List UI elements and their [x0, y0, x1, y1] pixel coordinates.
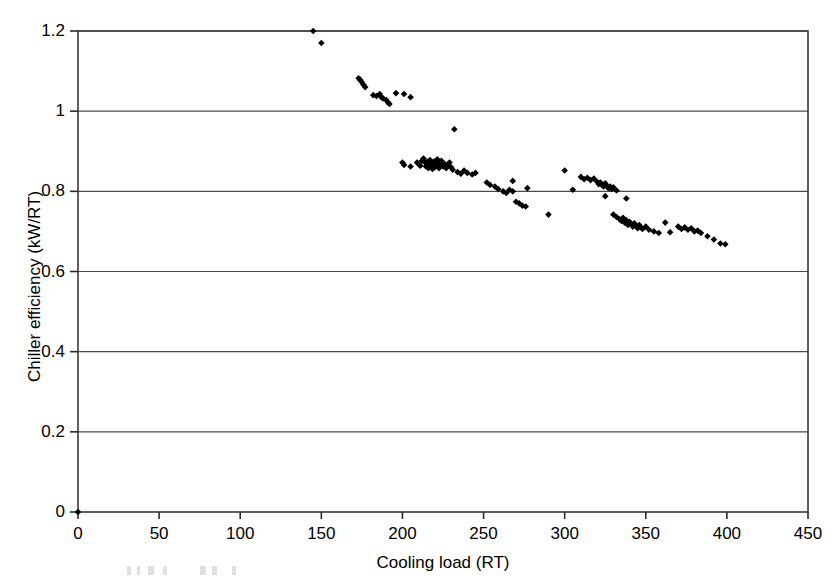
- y-tick-label: 0.8: [41, 182, 65, 199]
- data-point: [569, 186, 576, 193]
- y-tick-label: 1: [56, 102, 65, 119]
- x-tick-label: 250: [454, 525, 514, 542]
- x-tick-label: 200: [372, 525, 432, 542]
- x-tick-label: 450: [778, 525, 838, 542]
- data-point: [711, 236, 718, 243]
- data-point: [401, 91, 408, 98]
- y-tick-label: 0.6: [41, 263, 65, 280]
- data-point: [667, 229, 674, 236]
- data-point: [310, 28, 317, 35]
- x-tick-label: 350: [616, 525, 676, 542]
- x-tick-label: 300: [535, 525, 595, 542]
- y-tick-label: 1.2: [41, 22, 65, 39]
- x-axis-title: Cooling load (RT): [293, 554, 593, 571]
- data-point: [318, 40, 325, 47]
- data-point: [662, 219, 669, 226]
- y-tick-label: 0.4: [41, 343, 65, 360]
- y-tick-label: 0.2: [41, 423, 65, 440]
- chart-figure: 00.20.40.60.811.2 0501001502002503003504…: [0, 0, 840, 588]
- data-point: [509, 178, 516, 185]
- tick-marks-group: [70, 31, 808, 519]
- scatter-plot-canvas: [0, 0, 840, 588]
- data-point: [561, 167, 568, 174]
- x-tick-label: 150: [291, 525, 351, 542]
- x-tick-label: 50: [129, 525, 189, 542]
- scan-artifact: [118, 566, 268, 575]
- data-point: [407, 94, 414, 101]
- data-point: [722, 241, 729, 248]
- data-point: [451, 126, 458, 133]
- data-point: [75, 509, 82, 516]
- data-point: [602, 193, 609, 200]
- data-point: [393, 90, 400, 97]
- data-point: [407, 163, 414, 170]
- y-axis-title: Chiller efficiency (kW/RT): [26, 190, 43, 381]
- data-point: [623, 195, 630, 202]
- x-tick-label: 400: [697, 525, 757, 542]
- x-tick-label: 0: [48, 525, 108, 542]
- data-point: [524, 185, 531, 192]
- y-tick-label: 0: [56, 503, 65, 520]
- data-point: [545, 211, 552, 218]
- x-tick-label: 100: [210, 525, 270, 542]
- data-point: [717, 240, 724, 247]
- data-point: [704, 233, 711, 240]
